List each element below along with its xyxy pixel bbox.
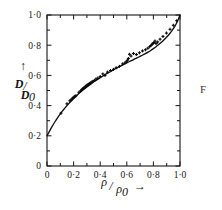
y-axis-arrow-icon: ↑ bbox=[20, 59, 26, 73]
x-tick-label: 0 bbox=[45, 170, 50, 180]
y-axis-denominator-subscript: 0 bbox=[29, 90, 35, 104]
y-tick-label: 1·0 bbox=[28, 10, 41, 20]
figure-corner-mark: F bbox=[200, 83, 206, 95]
figure-container: 00·20·40·60·81·0 00·20·40·60·81·0 ρ / ρ … bbox=[0, 0, 222, 210]
x-tick-label: 0·6 bbox=[120, 170, 133, 180]
y-tick-label: 0 bbox=[36, 161, 41, 171]
y-tick-label: 0·8 bbox=[28, 41, 41, 51]
x-tick-label: 0·8 bbox=[147, 170, 160, 180]
x-axis-denominator-subscript: 0 bbox=[122, 185, 128, 199]
y-tick-label: 0·6 bbox=[28, 71, 41, 81]
scatter-plot: 00·20·40·60·81·0 00·20·40·60·81·0 ρ / ρ … bbox=[0, 0, 222, 210]
x-tick-label: 0·2 bbox=[67, 170, 80, 180]
x-tick-label: 1·0 bbox=[174, 170, 187, 180]
x-axis-arrow-icon: → bbox=[134, 179, 146, 193]
x-axis-numerator: ρ bbox=[100, 175, 107, 189]
y-tick-label: 0·2 bbox=[28, 131, 41, 141]
